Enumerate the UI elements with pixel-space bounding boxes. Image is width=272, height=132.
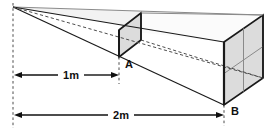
dimension-2m-arrow-left [14, 112, 22, 118]
square-b-label: B [231, 105, 239, 117]
square-a-label: A [125, 58, 133, 70]
dimension-1m-label: 1m [63, 69, 79, 81]
inverse-square-law-figure: 1m 2m A B [0, 0, 272, 132]
dimension-2m-label: 2m [113, 109, 129, 121]
diagram-canvas: 1m 2m A B [0, 0, 272, 132]
dimension-2m-arrow-right [216, 112, 224, 118]
dimension-1m: 1m [14, 69, 119, 81]
dimension-1m-arrow-right [111, 72, 119, 78]
dimension-2m: 2m [14, 109, 224, 121]
dimension-1m-arrow-left [14, 72, 22, 78]
